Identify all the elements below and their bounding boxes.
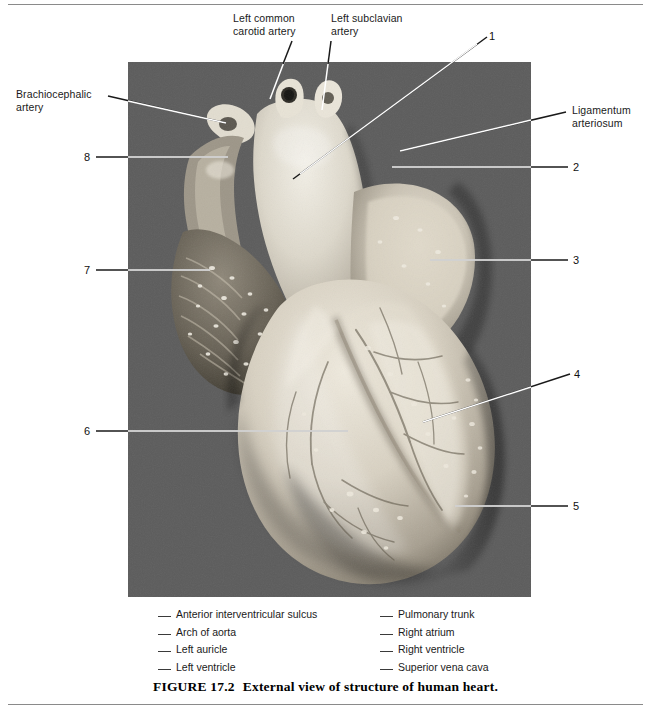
legend-item[interactable]: Left ventricle [158,661,317,679]
figure-caption: FIGURE 17.2External view of structure of… [0,679,651,695]
legend-item-label: Left auricle [176,643,227,655]
legend-item-label: Pulmonary trunk [398,608,474,620]
legend-column-2: Pulmonary trunk Right atrium Right ventr… [380,608,488,678]
figure-number: FIGURE 17.2 [153,679,235,694]
figure-caption-text: External view of structure of human hear… [243,679,498,694]
callout-number-4: 4 [574,368,580,380]
legend-item[interactable]: Right ventricle [380,643,488,661]
label-left-common-carotid-artery: Left common carotid artery [233,12,296,37]
legend-item-label: Left ventricle [176,661,236,673]
bottom-divider-rule [8,704,643,705]
leader-left-subclavian-dark [328,41,331,64]
legend-item-label: Arch of aorta [176,626,236,638]
label-brachiocephalic-artery: Brachiocephalic artery [16,88,92,113]
legend-item[interactable]: Superior vena cava [380,661,488,679]
answer-blank[interactable] [158,616,171,617]
callout-number-2: 2 [573,161,579,173]
legend-item[interactable]: Left auricle [158,643,317,661]
heart-specimen-image [128,62,531,597]
answer-blank[interactable] [380,616,393,617]
legend-column-1: Anterior interventricular sulcus Arch of… [158,608,317,678]
legend-item-label: Right atrium [398,626,455,638]
label-ligamentum-arteriosum: Ligamentum arteriosum [572,104,631,129]
answer-blank[interactable] [380,669,393,670]
answer-blank[interactable] [158,634,171,635]
label-left-subclavian-artery: Left subclavian artery [331,12,403,37]
legend-item[interactable]: Arch of aorta [158,626,317,644]
legend-item-label: Anterior interventricular sulcus [176,608,317,620]
legend-item-label: Right ventricle [398,643,465,655]
callout-number-3: 3 [573,254,579,266]
leader-left-common-carotid-dark [283,41,292,64]
answer-blank[interactable] [158,669,171,670]
answer-blank[interactable] [158,651,171,652]
heart-photograph [128,62,531,597]
figure-page: Left common carotid artery Left subclavi… [0,0,651,716]
callout-number-7: 7 [84,264,90,276]
top-divider-rule [8,4,643,5]
answer-blank[interactable] [380,634,393,635]
callout-number-5: 5 [573,500,579,512]
legend-item[interactable]: Right atrium [380,626,488,644]
answer-blank[interactable] [380,651,393,652]
legend-item[interactable]: Pulmonary trunk [380,608,488,626]
callout-number-8: 8 [84,151,90,163]
answer-blank-legend: Anterior interventricular sulcus Arch of… [0,608,651,678]
legend-item-label: Superior vena cava [398,661,488,673]
legend-item[interactable]: Anterior interventricular sulcus [158,608,317,626]
callout-number-6: 6 [84,425,90,437]
callout-number-1: 1 [489,30,495,42]
